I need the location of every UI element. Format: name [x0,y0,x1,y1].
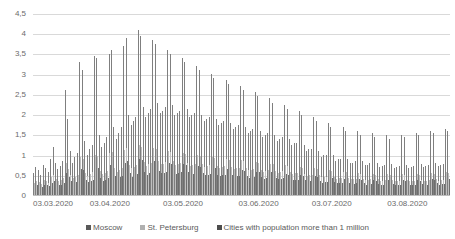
bar [449,179,450,195]
x-axis: 03.03.202003.04.202003.05.202003.06.2020… [33,199,450,213]
x-axis-tick-label: 03.08.2020 [387,199,427,208]
legend-item[interactable]: Cities with population more than 1 milli… [217,223,369,232]
bar-chart: 00,511,522,533,544,5 03.03.202003.04.202… [0,0,455,239]
y-axis-tick-label: 1 [22,152,26,160]
legend-swatch-icon [140,225,145,230]
legend-label: St. Petersburg [147,223,198,232]
y-axis-tick-label: 4,5 [15,10,26,18]
legend-swatch-icon [217,225,222,230]
x-axis-tick-label: 03.04.2020 [90,199,130,208]
y-axis-tick-label: 4 [22,30,26,38]
y-axis: 00,511,522,533,544,5 [0,0,30,196]
chart-legend: MoscowSt. PetersburgCities with populati… [0,219,455,235]
y-axis-tick-label: 0,5 [15,172,26,180]
y-axis-tick-label: 3 [22,71,26,79]
y-axis-tick-label: 3,5 [15,50,26,58]
legend-label: Moscow [93,223,122,232]
plot-area [33,14,450,196]
x-axis-tick-label: 03.07.2020 [312,199,352,208]
y-axis-tick-label: 0 [22,192,26,200]
bar-series-container [33,14,450,195]
x-axis-tick-label: 03.05.2020 [163,199,203,208]
x-axis-tick-label: 03.06.2020 [239,199,279,208]
legend-swatch-icon [86,225,91,230]
legend-label: Cities with population more than 1 milli… [224,223,369,232]
y-axis-tick-label: 1,5 [15,131,26,139]
y-axis-tick-label: 2,5 [15,91,26,99]
y-axis-tick-label: 2 [22,111,26,119]
x-axis-tick-label: 03.03.2020 [33,199,73,208]
x-axis-line [33,195,450,196]
legend-item[interactable]: St. Petersburg [140,223,198,232]
bar-group [447,14,449,195]
legend-item[interactable]: Moscow [86,223,122,232]
